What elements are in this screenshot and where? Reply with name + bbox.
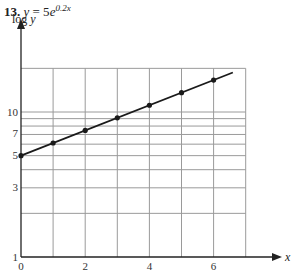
tick-labels: 0246135710 [7,106,217,272]
axes: xlog y [12,12,291,264]
data-point [179,90,184,95]
data-point [147,103,152,108]
x-tick-label: 0 [18,260,24,272]
log-plot: xlog y 0246135710 [0,0,291,275]
y-tick-label: 3 [13,181,19,193]
x-tick-label: 4 [147,260,153,272]
data-point [83,128,88,133]
grid-lines [21,68,246,257]
data-series [18,73,232,159]
y-tick-label: 1 [13,251,19,263]
y-tick-label: 7 [13,127,19,139]
data-point [115,115,120,120]
x-tick-label: 2 [82,260,88,272]
y-tick-label: 10 [7,106,19,118]
data-point [211,77,216,82]
x-axis-arrow-icon [272,253,282,261]
data-point [51,140,56,145]
data-point [18,153,23,158]
x-axis-label: x [284,250,291,264]
y-axis-label: log y [12,12,36,26]
x-tick-label: 6 [211,260,217,272]
y-tick-label: 5 [13,149,19,161]
